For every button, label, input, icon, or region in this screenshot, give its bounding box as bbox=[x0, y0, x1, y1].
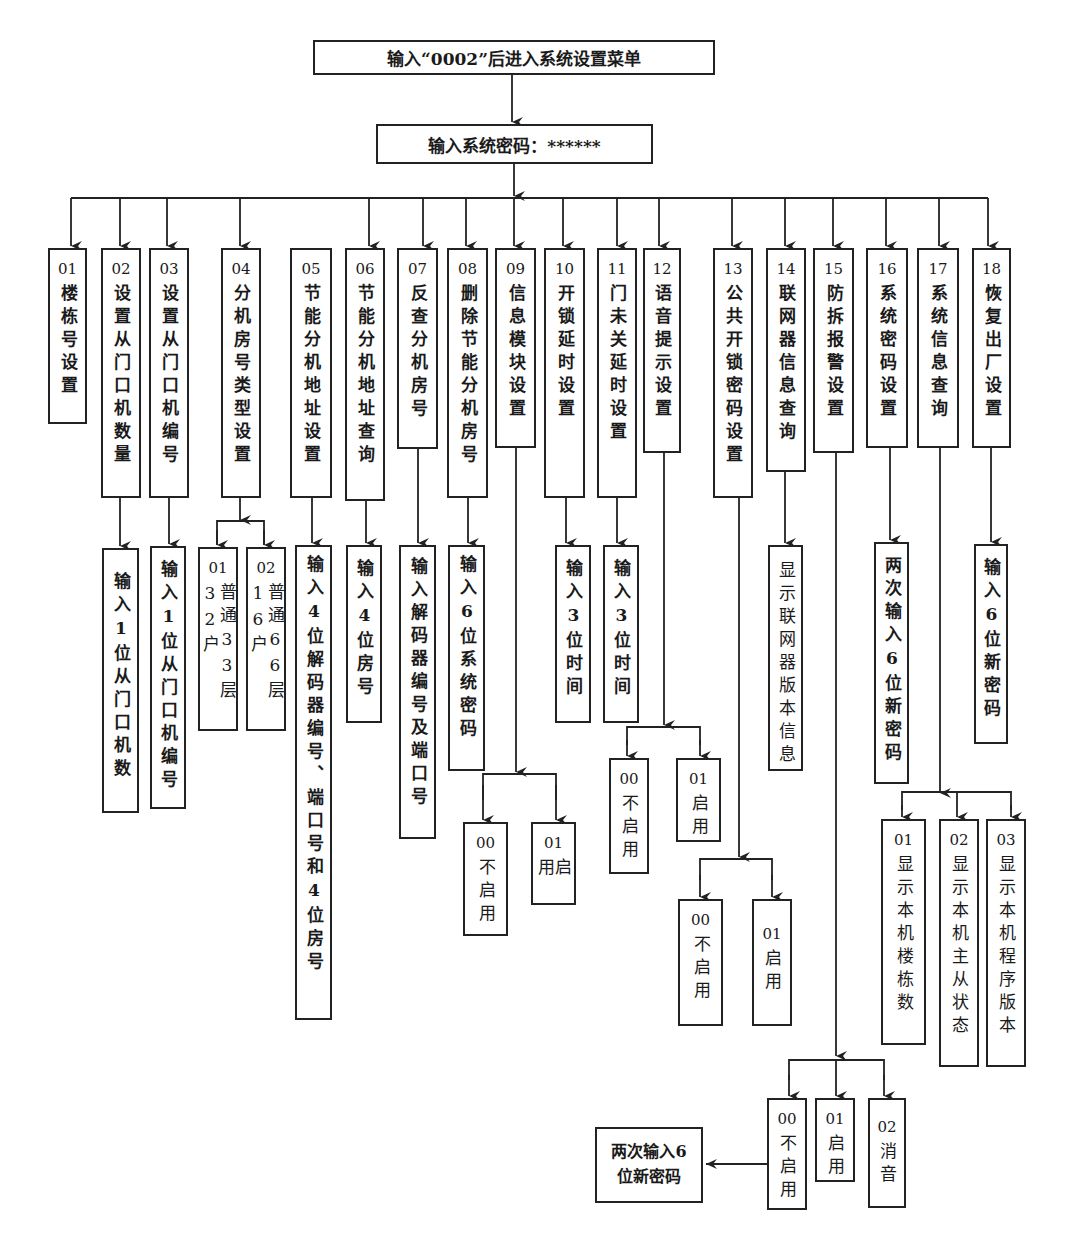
option-13-01: 01 启用 bbox=[752, 899, 792, 1026]
menu-16-num: 16 bbox=[877, 260, 896, 278]
option-17-02-num: 02 bbox=[949, 831, 968, 849]
menu-17: 17 系统信息查询 bbox=[917, 248, 959, 448]
menu-14: 14 联网器信息查询 bbox=[766, 248, 806, 472]
menu-04-num: 04 bbox=[231, 260, 250, 278]
extra-box-15-line2: 位新密码 bbox=[611, 1165, 686, 1190]
menu-05: 05 节能分机地址设置 bbox=[290, 248, 332, 498]
option-04-01: 01 普通33层32户 bbox=[198, 547, 238, 731]
menu-13-label: 公共开锁密码设置 bbox=[725, 284, 742, 468]
option-17-03-num: 03 bbox=[996, 831, 1015, 849]
menu-09-num: 09 bbox=[506, 260, 525, 278]
menu-01-num: 01 bbox=[58, 260, 77, 278]
menu-01: 01 楼栋号设置 bbox=[48, 248, 87, 424]
menu-15: 15 防拆报警设置 bbox=[813, 248, 854, 453]
child-18-label: 输入6位新密码 bbox=[983, 558, 1000, 722]
option-12-01: 01 启用 bbox=[676, 758, 721, 842]
option-09-01-label: 启用 bbox=[537, 858, 571, 903]
menu-14-label: 联网器信息查询 bbox=[778, 284, 795, 445]
menu-06-num: 06 bbox=[355, 260, 374, 278]
child-05: 输入4位解码器编号、端口号和4位房号 bbox=[295, 545, 332, 1020]
child-16-label: 两次输入6位新密码 bbox=[883, 556, 900, 766]
option-15-00-num: 00 bbox=[777, 1110, 796, 1128]
option-15-00: 00 不启用 bbox=[767, 1098, 807, 1210]
option-15-01-num: 01 bbox=[825, 1110, 844, 1128]
password-label: 输入系统密码：****** bbox=[428, 132, 600, 157]
option-17-03-label: 显示本机程序版本 bbox=[998, 855, 1015, 1039]
child-11-label: 输入3位时间 bbox=[613, 559, 630, 700]
menu-06-label: 节能分机地址查询 bbox=[357, 284, 374, 468]
option-15-02-num: 02 bbox=[877, 1118, 896, 1136]
menu-09: 09 信息模块设置 bbox=[495, 248, 536, 448]
child-18: 输入6位新密码 bbox=[974, 544, 1008, 744]
menu-17-label: 系统信息查询 bbox=[930, 284, 947, 422]
extra-box-15-text: 两次输入6 位新密码 bbox=[611, 1140, 686, 1190]
menu-03: 03 设置从门口机编号 bbox=[149, 248, 189, 498]
option-12-00: 00 不启用 bbox=[609, 758, 649, 874]
menu-03-num: 03 bbox=[159, 260, 178, 278]
menu-15-label: 防拆报警设置 bbox=[825, 284, 842, 422]
menu-05-num: 05 bbox=[301, 260, 320, 278]
menu-11-label: 门未关延时设置 bbox=[609, 284, 626, 445]
password-box: 输入系统密码：****** bbox=[376, 124, 653, 164]
option-13-00-num: 00 bbox=[691, 911, 710, 929]
menu-07-num: 07 bbox=[408, 260, 427, 278]
menu-02-num: 02 bbox=[111, 260, 130, 278]
menu-10-num: 10 bbox=[555, 260, 574, 278]
option-17-01: 01 显示本机楼栋数 bbox=[881, 819, 926, 1045]
option-13-01-num: 01 bbox=[762, 925, 781, 943]
option-09-00: 00 不启用 bbox=[463, 822, 508, 936]
menu-10: 10 开锁延时设置 bbox=[544, 248, 585, 498]
extra-box-15: 两次输入6 位新密码 bbox=[595, 1127, 703, 1203]
child-11: 输入3位时间 bbox=[603, 545, 639, 723]
option-17-01-label: 显示本机楼栋数 bbox=[895, 855, 912, 1016]
option-04-02-num: 02 bbox=[256, 559, 275, 577]
menu-05-label: 节能分机地址设置 bbox=[303, 284, 320, 468]
menu-12-num: 12 bbox=[652, 260, 671, 278]
child-05-label: 输入4位解码器编号、端口号和4位房号 bbox=[305, 555, 322, 975]
menu-03-label: 设置从门口机编号 bbox=[161, 284, 178, 468]
option-13-00-label: 不启用 bbox=[692, 935, 709, 1004]
option-12-00-num: 00 bbox=[619, 770, 638, 788]
option-12-01-label: 启用 bbox=[690, 794, 707, 840]
option-09-01-num: 01 bbox=[544, 834, 563, 852]
menu-11-num: 11 bbox=[607, 260, 626, 278]
child-08-label: 输入6位系统密码 bbox=[458, 555, 475, 742]
option-09-00-num: 00 bbox=[476, 834, 495, 852]
child-16: 两次输入6位新密码 bbox=[874, 542, 909, 784]
option-15-02: 02 消音 bbox=[868, 1098, 906, 1208]
option-15-01-label: 启用 bbox=[827, 1134, 844, 1180]
menu-08-num: 08 bbox=[458, 260, 477, 278]
menu-04: 04 分机房号类型设置 bbox=[221, 248, 261, 498]
menu-07: 07 反查分机房号 bbox=[397, 248, 438, 449]
option-17-01-num: 01 bbox=[894, 831, 913, 849]
menu-02-label: 设置从门口机数量 bbox=[113, 284, 130, 468]
option-12-01-num: 01 bbox=[689, 770, 708, 788]
child-08: 输入6位系统密码 bbox=[448, 545, 485, 771]
menu-07-label: 反查分机房号 bbox=[409, 284, 426, 422]
child-02-label: 输入1位从门口机数 bbox=[112, 572, 129, 782]
child-07: 输入解码器编号及端口号 bbox=[399, 545, 436, 839]
option-12-00-label: 不启用 bbox=[621, 794, 638, 863]
option-17-02: 02 显示本机主从状态 bbox=[939, 819, 979, 1067]
menu-04-label: 分机房号类型设置 bbox=[233, 284, 250, 468]
option-17-03: 03 显示本机程序版本 bbox=[986, 819, 1026, 1067]
option-15-02-label: 消音 bbox=[879, 1142, 896, 1188]
menu-17-num: 17 bbox=[928, 260, 947, 278]
menu-13: 13 公共开锁密码设置 bbox=[713, 248, 753, 498]
option-09-01: 01 启用 bbox=[531, 822, 576, 905]
child-14: 显示联网器版本信息 bbox=[768, 545, 803, 771]
menu-18: 18 恢复出厂设置 bbox=[972, 248, 1011, 448]
child-03-label: 输入1位从门口机编号 bbox=[160, 560, 177, 793]
menu-06: 06 节能分机地址查询 bbox=[345, 248, 385, 501]
child-10-label: 输入3位时间 bbox=[565, 559, 582, 700]
menu-13-num: 13 bbox=[723, 260, 742, 278]
option-09-00-label: 不启用 bbox=[477, 858, 494, 927]
menu-15-num: 15 bbox=[824, 260, 843, 278]
option-04-02: 02 普通66层16户 bbox=[246, 547, 286, 731]
menu-16: 16 系统密码设置 bbox=[866, 248, 908, 448]
child-03: 输入1位从门口机编号 bbox=[150, 546, 186, 809]
menu-12-label: 语音提示设置 bbox=[654, 284, 671, 422]
menu-12: 12 语音提示设置 bbox=[643, 248, 681, 453]
menu-08-label: 删除节能分机房号 bbox=[459, 284, 476, 468]
child-07-label: 输入解码器编号及端口号 bbox=[409, 557, 426, 810]
